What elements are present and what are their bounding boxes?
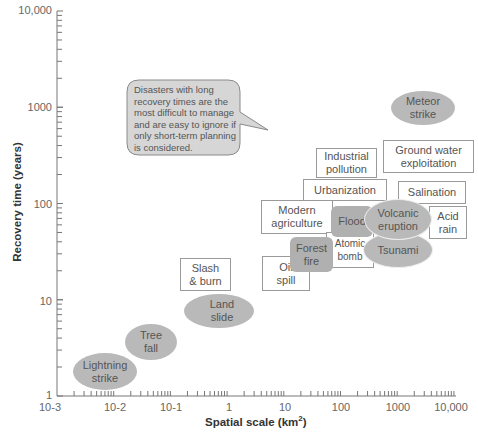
item-slash-and-burn: Slash & burn bbox=[180, 258, 231, 291]
y-tick-100: 100 bbox=[0, 198, 52, 210]
callout-text: Disasters with long recovery times are t… bbox=[134, 84, 242, 153]
y-tick-10: 10 bbox=[0, 295, 52, 307]
item-tree-fall: Tree fall bbox=[125, 324, 177, 360]
y-tick-10000: 10,000 bbox=[0, 4, 52, 16]
x-tick-0: 10-3 bbox=[25, 401, 75, 413]
x-tick-5: 100 bbox=[316, 401, 366, 413]
item-land-slide: Land slide bbox=[184, 294, 254, 328]
item-forest-fire: Forest fire bbox=[290, 237, 333, 272]
x-tick-4: 10 bbox=[260, 401, 310, 413]
y-tick-1: 1 bbox=[0, 389, 52, 401]
item-volcanic-eruption: Volcanic eruption bbox=[364, 199, 432, 240]
y-tick-1000: 1000 bbox=[0, 101, 52, 113]
item-acid-rain: Acid rain bbox=[429, 206, 467, 239]
x-axis-title: Spatial scale (km2) bbox=[205, 414, 307, 428]
x-tick-3: 1 bbox=[204, 401, 254, 413]
item-modern-agriculture: Modern agriculture bbox=[261, 200, 333, 234]
item-urbanization: Urbanization bbox=[303, 179, 387, 201]
x-tick-7: 10,000 bbox=[426, 401, 476, 413]
x-tick-2: 10-1 bbox=[146, 401, 196, 413]
item-ground-water-exploitation: Ground water exploitation bbox=[383, 140, 474, 173]
y-axis-title: Recovery time (years) bbox=[11, 137, 23, 267]
item-meteor-strike: Meteor strike bbox=[391, 91, 455, 125]
x-tick-1: 10-2 bbox=[90, 401, 140, 413]
x-tick-6: 1000 bbox=[373, 401, 423, 413]
item-industrial-pollution: Industrial pollution bbox=[316, 148, 377, 178]
item-lightning-strike: Lightning strike bbox=[73, 353, 137, 390]
